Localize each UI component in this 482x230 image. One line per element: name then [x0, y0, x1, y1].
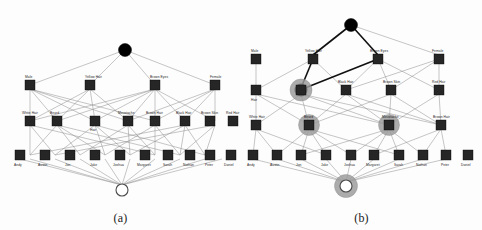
concept-node-female-a[interactable]	[210, 80, 220, 90]
concept-node-brown-hair-a[interactable]	[150, 116, 160, 126]
concept-node-red-hair-a[interactable]	[228, 116, 238, 126]
label-male-b: Male	[251, 49, 258, 53]
label-brown-skin-b: Brown Skin	[383, 80, 400, 84]
label-joshua-b: Joshua	[344, 163, 355, 167]
concept-node-male-b[interactable]	[251, 54, 261, 64]
object-node-joshua-a[interactable]	[115, 150, 125, 160]
concept-node-female-b[interactable]	[434, 54, 444, 64]
label-jon-b: Jon	[296, 163, 302, 167]
label-black-hair-a: Black Hair	[176, 111, 192, 115]
label-beard-b: Beard	[304, 115, 313, 119]
label-moustache-a: Moustache	[118, 111, 135, 115]
label-peter-a: Peter	[205, 163, 214, 167]
concept-node-brown-eyes-b[interactable]	[373, 54, 383, 64]
label-jake-a: Jake	[90, 163, 97, 167]
label-daniel-a: Daniel	[224, 163, 234, 167]
label-jake-b: Jake	[321, 163, 328, 167]
object-node-daniel-b[interactable]	[463, 150, 473, 160]
object-node-andy-b[interactable]	[248, 150, 258, 160]
nodes-a	[15, 44, 238, 197]
concept-node-hair-b[interactable]	[251, 85, 261, 95]
label-daniel-b: Daniel	[461, 163, 471, 167]
label-brown-hair-b: Brown Hair	[433, 115, 451, 119]
object-node-sarah-a[interactable]	[163, 150, 173, 160]
concept-node-brown-skin-b[interactable]	[386, 85, 396, 95]
lattice-diagram-a: Male Yellow Hair Brown Eyes Female White…	[0, 0, 241, 205]
label-moustache-b: Moustache	[382, 115, 399, 119]
label-brown-hair-a: Brown Hair	[146, 111, 164, 115]
concept-node-hair-a[interactable]	[90, 116, 100, 126]
label-nathan-a: Nathan	[183, 163, 194, 167]
concept-node-beard-b[interactable]	[304, 120, 314, 130]
object-node-andy-a[interactable]	[15, 150, 25, 160]
object-node-austin-a[interactable]	[40, 150, 50, 160]
label-white-hair-a: White Hair	[22, 111, 39, 115]
concept-node-yellow-hair-b[interactable]	[308, 54, 318, 64]
concept-node-brown-eyes-a[interactable]	[150, 80, 160, 90]
object-node-daniel-a[interactable]	[226, 150, 236, 160]
concept-node-red-hair-b[interactable]	[434, 85, 444, 95]
label-yellow-hair-a: Yellow Hair	[85, 75, 103, 79]
object-node-austin-b[interactable]	[272, 150, 282, 160]
concept-node-brown-hair-b[interactable]	[436, 120, 446, 130]
object-node-joshua-b[interactable]	[346, 150, 356, 160]
bottom-concept-node-a[interactable]	[116, 184, 128, 196]
top-concept-node-a[interactable]	[119, 44, 132, 57]
object-node-peter-b[interactable]	[441, 150, 451, 160]
label-andy-a: Andy	[14, 163, 22, 167]
label-peter-b: Peter	[441, 163, 450, 167]
object-node-jon-b[interactable]	[296, 150, 306, 160]
panel-b-caption: (b)	[241, 211, 482, 226]
label-red-hair-b: Red Hair	[432, 80, 446, 84]
concept-node-highlighted-b[interactable]	[296, 85, 306, 95]
label-andy-b: Andy	[247, 163, 255, 167]
object-node-nathan-a[interactable]	[185, 150, 195, 160]
object-node-sarah-b[interactable]	[394, 150, 404, 160]
concept-node-beard-a[interactable]	[52, 116, 62, 126]
object-node-peter-a[interactable]	[205, 150, 215, 160]
label-brown-eyes-b: Brown Eyes	[370, 49, 388, 53]
object-node-nathan-b[interactable]	[418, 150, 428, 160]
panel-a-caption: (a)	[0, 211, 241, 226]
top-concept-node-b[interactable]	[345, 19, 358, 32]
concept-node-brown-skin-a[interactable]	[205, 116, 215, 126]
label-black-hair-b: Black Hair	[338, 80, 354, 84]
label-brown-skin-a: Brown Skin	[201, 111, 218, 115]
label-white-hair-b: White Hair	[249, 115, 266, 119]
label-female-a: Female	[210, 75, 221, 79]
label-hair-a: Hair	[90, 128, 97, 132]
concept-node-yellow-hair-a[interactable]	[85, 80, 95, 90]
concept-node-male-a[interactable]	[25, 80, 35, 90]
object-node-jon-a[interactable]	[65, 150, 75, 160]
label-male-a: Male	[25, 75, 32, 79]
object-node-margaret-a[interactable]	[140, 150, 150, 160]
object-node-jake-a[interactable]	[90, 150, 100, 160]
panel-b: Male Yellow Hair Brown Eyes Female Hair …	[241, 0, 482, 230]
label-hair-b: Hair	[251, 98, 258, 102]
concept-node-black-hair-a[interactable]	[180, 116, 190, 126]
label-margaret-b: Margaret	[366, 163, 380, 167]
concept-node-white-hair-b[interactable]	[251, 120, 261, 130]
panel-a: Male Yellow Hair Brown Eyes Female White…	[0, 0, 241, 230]
concept-node-moustache-a[interactable]	[123, 116, 133, 126]
label-yellow-hair-b: Yellow Hair	[305, 49, 323, 53]
label-brown-eyes-a: Brown Eyes	[150, 75, 168, 79]
label-female-b: Female	[432, 49, 443, 53]
concept-node-black-hair-b[interactable]	[341, 85, 351, 95]
object-node-margaret-b[interactable]	[369, 150, 379, 160]
label-nathan-b: Nathan	[416, 163, 427, 167]
label-joshua-a: Joshua	[113, 163, 124, 167]
label-sarah-a: Sarah	[163, 163, 172, 167]
object-node-jake-b[interactable]	[321, 150, 331, 160]
figure-root: Male Yellow Hair Brown Eyes Female White…	[0, 0, 482, 230]
label-austin-a: Austin	[38, 163, 48, 167]
label-margaret-a: Margaret	[137, 163, 151, 167]
label-red-hair-a: Red Hair	[226, 111, 240, 115]
label-austin-b: Austin	[270, 163, 280, 167]
bottom-concept-node-b[interactable]	[340, 180, 352, 192]
concept-node-moustache-b[interactable]	[384, 120, 394, 130]
concept-node-white-hair-a[interactable]	[25, 116, 35, 126]
label-jon-a: Jon	[65, 163, 71, 167]
label-beard-a: Beard	[50, 111, 59, 115]
label-sarah-b: Sarah	[394, 163, 403, 167]
